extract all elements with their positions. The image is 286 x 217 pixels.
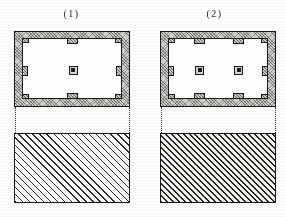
- interior-column-2: [234, 66, 243, 75]
- drawing-sheet: (1): [0, 0, 286, 217]
- section-block-2: [160, 133, 276, 203]
- corner-thickening-bottom-right: [261, 94, 268, 99]
- masonry-wall-band: [14, 31, 130, 107]
- pilaster-bottom-left: [194, 93, 205, 99]
- figure-2-label: (2): [143, 8, 286, 19]
- corner-thickening-top-left: [168, 38, 175, 43]
- projection-line-right: [275, 107, 276, 133]
- pilaster-left-center: [168, 66, 174, 76]
- figure-2: (2): [143, 0, 286, 217]
- projection-line-left: [15, 107, 16, 133]
- masonry-wall-band: [160, 31, 276, 107]
- pilaster-bottom-center: [67, 93, 78, 99]
- interior-column-1: [69, 66, 78, 75]
- pilaster-right-center: [116, 66, 122, 76]
- interior-column-1: [195, 66, 204, 75]
- interior-room: [168, 38, 268, 99]
- corner-thickening-bottom-left: [168, 94, 175, 99]
- pilaster-top-left: [194, 38, 205, 44]
- figure-1-plan: [14, 31, 130, 107]
- corner-thickening-bottom-left: [22, 94, 29, 99]
- projection-line-right: [129, 107, 130, 133]
- figure-1: (1): [0, 0, 143, 217]
- pilaster-top-right: [233, 38, 244, 44]
- pilaster-left-center: [22, 66, 28, 76]
- pilaster-right-center: [262, 66, 268, 76]
- corner-thickening-bottom-right: [115, 94, 122, 99]
- corner-thickening-top-right: [115, 38, 122, 43]
- pilaster-bottom-right: [233, 93, 244, 99]
- figure-2-plan: [160, 31, 276, 107]
- pilaster-top-center: [67, 38, 78, 44]
- section-block-1: [14, 133, 130, 203]
- corner-thickening-top-left: [22, 38, 29, 43]
- figure-1-label: (1): [0, 8, 143, 19]
- corner-thickening-top-right: [261, 38, 268, 43]
- projection-line-left: [161, 107, 162, 133]
